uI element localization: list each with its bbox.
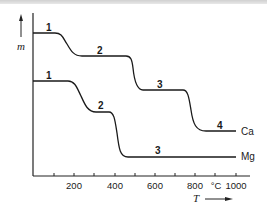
ca-step-3-label: 3 xyxy=(157,80,163,90)
mg-step-2-label: 2 xyxy=(98,101,104,111)
ca-step-4-label: 4 xyxy=(217,121,223,131)
mg-series-label: Mg xyxy=(241,152,255,162)
mg-curve xyxy=(33,81,236,157)
mg-step-3-label: 3 xyxy=(155,146,161,156)
tga-plot xyxy=(0,0,267,210)
x-unit-label: °C xyxy=(211,181,222,191)
x-tick-400: 400 xyxy=(107,181,123,191)
y-arrow-head-icon xyxy=(19,14,23,21)
y-axis-label: m xyxy=(17,41,25,52)
mg-step-1-label: 1 xyxy=(46,71,52,81)
ca-curve xyxy=(33,33,236,131)
x-arrow-head-icon xyxy=(225,197,233,201)
ca-step-1-label: 1 xyxy=(46,23,52,33)
ca-step-2-label: 2 xyxy=(97,46,103,56)
ca-series-label: Ca xyxy=(241,127,254,137)
x-tick-800: 800 xyxy=(187,181,203,191)
x-axis-label: T xyxy=(193,193,199,204)
x-tick-600: 600 xyxy=(147,181,163,191)
x-tick-200: 200 xyxy=(66,181,82,191)
x-tick-1000: 1000 xyxy=(225,181,246,191)
